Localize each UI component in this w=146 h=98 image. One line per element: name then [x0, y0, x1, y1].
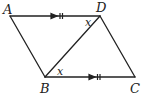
vertex-label-C: C — [130, 81, 140, 96]
vertex-label-B: B — [39, 81, 50, 96]
angle-label-x-at-B: x — [57, 65, 64, 78]
angle-label-x-at-D: x — [85, 16, 92, 29]
segment-AB — [10, 16, 45, 77]
segment-DC — [100, 16, 135, 77]
vertex-label-D: D — [95, 0, 107, 15]
parallelogram-diagram: A D B C x x — [0, 0, 146, 98]
vertex-label-A: A — [2, 2, 12, 17]
diagonal-BD — [45, 16, 100, 77]
